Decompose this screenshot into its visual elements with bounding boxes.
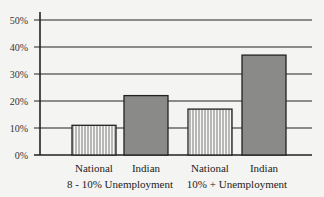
x-group-label: 8 - 10% Unemployment — [67, 178, 173, 190]
y-tick-label: 50% — [10, 15, 28, 26]
bar-indian-1 — [124, 96, 168, 155]
y-tick-label: 40% — [10, 42, 28, 53]
bar-chart: 0%10%20%30%40%50%NationalIndian8 - 10% U… — [0, 0, 324, 197]
bar-indian-2 — [242, 55, 286, 155]
x-category-label: National — [75, 162, 113, 174]
y-tick-label: 20% — [10, 96, 28, 107]
y-tick-label: 0% — [15, 150, 28, 161]
x-category-label: Indian — [250, 162, 279, 174]
x-group-label: 10% + Unemployment — [187, 178, 287, 190]
x-category-label: National — [191, 162, 229, 174]
bar-national-2 — [188, 109, 232, 155]
x-category-label: Indian — [132, 162, 161, 174]
y-tick-label: 30% — [10, 69, 28, 80]
bar-national-1 — [72, 125, 116, 155]
y-tick-label: 10% — [10, 123, 28, 134]
